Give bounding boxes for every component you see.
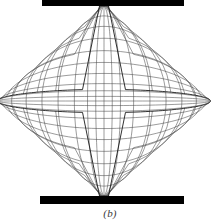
mesh-line <box>0 96 210 100</box>
deformed-mesh-figure <box>0 0 220 224</box>
figure-caption: (b) <box>0 206 220 220</box>
top-platen <box>42 0 184 6</box>
mesh-line <box>0 102 210 106</box>
bottom-platen <box>40 196 184 204</box>
mesh-line <box>0 102 210 111</box>
figure-container: (b) <box>0 0 220 224</box>
mesh-line <box>0 91 210 100</box>
mesh-grid-lines <box>0 6 211 196</box>
mesh-line <box>0 103 209 118</box>
mesh-line <box>0 84 209 99</box>
